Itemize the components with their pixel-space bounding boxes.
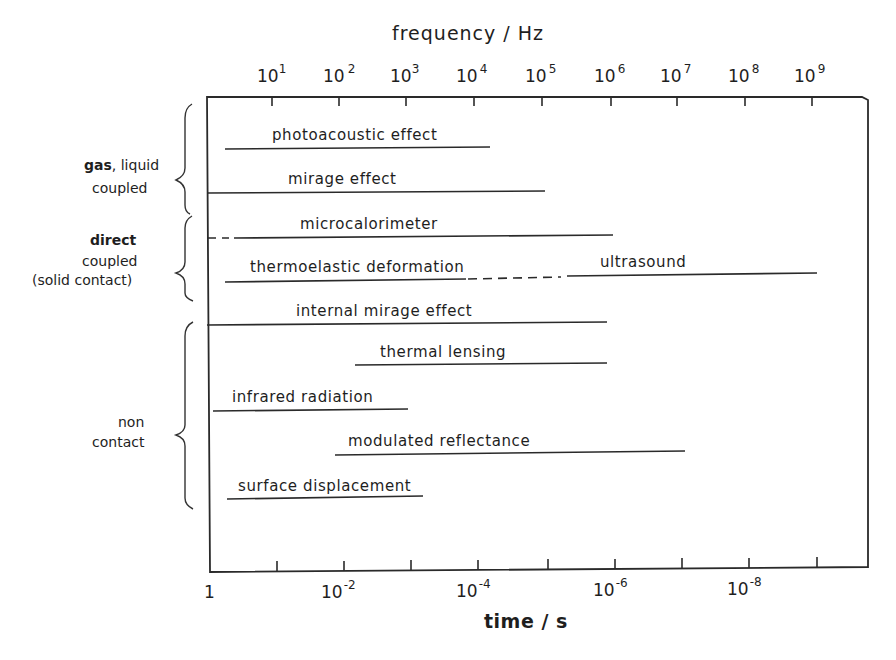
freq-tick-label: 104 bbox=[456, 62, 487, 86]
svg-text:modulated reflectance: modulated reflectance bbox=[348, 432, 530, 450]
time-tick-label: 10-6 bbox=[593, 576, 628, 600]
group-gas-liquid-coupled: gas, liquid coupled bbox=[84, 157, 159, 196]
technique-internal-mirage-effect: internal mirage effect bbox=[207, 302, 607, 325]
svg-text:photoacoustic effect: photoacoustic effect bbox=[272, 126, 437, 144]
svg-text:thermal lensing: thermal lensing bbox=[380, 343, 506, 361]
plot-frame bbox=[207, 97, 868, 572]
direct-coupled-brace bbox=[176, 216, 193, 301]
frequency-ticks bbox=[272, 97, 812, 106]
svg-text:thermoelastic deformation: thermoelastic deformation bbox=[250, 258, 464, 276]
time-tick-label: 10-2 bbox=[321, 578, 356, 602]
group-label: gas, liquid bbox=[84, 157, 159, 173]
group-non-contact: non contact bbox=[92, 414, 145, 450]
technique-ultrasound: ultrasound bbox=[567, 253, 817, 276]
freq-tick-label: 108 bbox=[728, 62, 759, 86]
time-axis-title: time / s bbox=[484, 610, 568, 632]
technique-thermal-lensing: thermal lensing bbox=[355, 343, 607, 365]
freq-tick-label: 102 bbox=[323, 62, 355, 86]
frequency-tick-labels: 101 102 103 104 105 106 107 108 109 bbox=[257, 62, 825, 86]
technique-surface-displacement: surface displacement bbox=[227, 477, 423, 499]
freq-tick-label: 107 bbox=[660, 62, 691, 86]
group-label: non bbox=[118, 414, 144, 430]
technique-infrared-radiation: infrared radiation bbox=[213, 388, 408, 411]
non-contact-brace bbox=[176, 322, 193, 509]
group-label-line3: (solid contact) bbox=[32, 272, 132, 288]
timescale-diagram: frequency / Hz 101 102 103 104 105 106 1… bbox=[0, 0, 896, 660]
freq-tick-label: 105 bbox=[525, 62, 556, 86]
svg-text:internal mirage effect: internal mirage effect bbox=[296, 302, 472, 320]
svg-text:infrared radiation: infrared radiation bbox=[232, 388, 373, 406]
freq-tick-label: 106 bbox=[594, 62, 625, 86]
gas-liquid-brace bbox=[176, 104, 192, 214]
group-label-line2: coupled bbox=[82, 253, 137, 269]
frequency-axis-title: frequency / Hz bbox=[392, 22, 544, 44]
time-tick-label: 10-8 bbox=[727, 575, 762, 599]
svg-text:ultrasound: ultrasound bbox=[600, 253, 686, 271]
group-label-line2: contact bbox=[92, 434, 145, 450]
svg-text:microcalorimeter: microcalorimeter bbox=[300, 215, 438, 233]
svg-text:surface displacement: surface displacement bbox=[238, 477, 411, 495]
technique-thermoelastic-deformation: thermoelastic deformation bbox=[225, 258, 561, 282]
technique-modulated-reflectance: modulated reflectance bbox=[335, 432, 685, 455]
freq-tick-label: 103 bbox=[390, 62, 419, 86]
group-label-line2: coupled bbox=[92, 180, 147, 196]
technique-photoacoustic-effect: photoacoustic effect bbox=[225, 126, 490, 149]
svg-text:mirage effect: mirage effect bbox=[288, 170, 397, 188]
group-direct-coupled: direct coupled (solid contact) bbox=[32, 232, 137, 288]
time-tick-label: 1 bbox=[204, 582, 215, 602]
time-tick-labels: 1 10-2 10-4 10-6 10-8 bbox=[204, 575, 762, 602]
technique-mirage-effect: mirage effect bbox=[207, 170, 545, 193]
freq-tick-label: 109 bbox=[794, 62, 825, 86]
technique-microcalorimeter: microcalorimeter bbox=[207, 215, 613, 238]
freq-tick-label: 101 bbox=[257, 62, 286, 86]
time-tick-label: 10-4 bbox=[456, 577, 491, 601]
group-label: direct bbox=[90, 232, 137, 248]
